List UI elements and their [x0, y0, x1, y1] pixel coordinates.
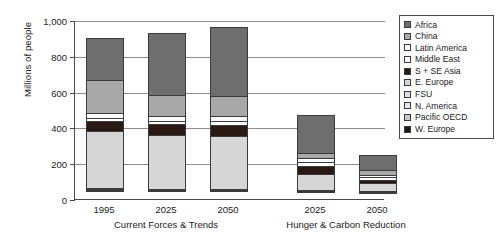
- legend-swatch-icon: [404, 114, 411, 121]
- legend-swatch-icon: [404, 44, 411, 51]
- bar-segment: [86, 131, 124, 189]
- bar-segment: [148, 135, 186, 190]
- bar-segment: [86, 190, 124, 192]
- x-axis-tick-label: 2025: [155, 204, 176, 215]
- legend-swatch-icon: [404, 21, 411, 28]
- x-axis-group-label: Hunger & Carbon Reduction: [286, 219, 405, 230]
- chart-root: Millions of people 02004006008001,000 19…: [0, 0, 498, 245]
- legend-item-label: FSU: [415, 90, 432, 99]
- x-axis-tick-label: 2050: [217, 204, 238, 215]
- bar-segment: [210, 96, 248, 117]
- legend-swatch-icon: [404, 126, 411, 133]
- bar-segment: [86, 80, 124, 114]
- x-axis-tick-label: 2025: [304, 204, 325, 215]
- y-axis-tick-label: 0: [62, 195, 67, 206]
- legend-item-label: Middle East: [415, 55, 460, 64]
- bar-stack: [148, 33, 186, 199]
- legend-swatch-icon: [404, 68, 411, 75]
- plot-area: 02004006008001,000: [74, 21, 384, 200]
- legend-item-label: W. Europe: [415, 125, 455, 134]
- legend-item[interactable]: E. Europe: [404, 77, 490, 89]
- x-axis-tick-label: 1995: [93, 204, 114, 215]
- legend-item-label: Latin America: [415, 44, 467, 53]
- bar-segment: [86, 38, 124, 81]
- legend-item-label: S + SE Asia: [415, 67, 461, 76]
- y-axis-tick: [70, 128, 75, 129]
- legend-item[interactable]: S + SE Asia: [404, 65, 490, 77]
- y-axis-tick-label: 600: [51, 87, 67, 98]
- bar-segment: [148, 95, 186, 117]
- legend-swatch-icon: [404, 56, 411, 63]
- y-axis-tick-label: 200: [51, 159, 67, 170]
- bar-segment: [297, 115, 335, 153]
- bar-segment: [148, 190, 186, 192]
- legend-item[interactable]: Pacific OECD: [404, 112, 490, 124]
- legend-item-label: Pacific OECD: [415, 113, 468, 122]
- y-axis-tick-label: 800: [51, 51, 67, 62]
- x-axis-tick-label: 2050: [366, 204, 387, 215]
- bar-stack: [359, 155, 397, 199]
- legend-item[interactable]: China: [404, 31, 490, 43]
- bar-segment: [297, 174, 335, 191]
- x-axis-group-label: Current Forces & Trends: [114, 219, 218, 230]
- y-axis-tick-label: 1,000: [43, 16, 67, 27]
- bar-stack: [297, 115, 335, 199]
- legend-item-label: E. Europe: [415, 78, 453, 87]
- legend-swatch-icon: [404, 79, 411, 86]
- y-axis-title: Millions of people: [22, 0, 33, 125]
- legend-item-label: N. America: [415, 102, 457, 111]
- y-axis-tick: [70, 21, 75, 22]
- y-axis-tick: [70, 164, 75, 165]
- legend-item[interactable]: FSU: [404, 89, 490, 101]
- bar-stack: [210, 27, 248, 199]
- y-axis-tick: [70, 200, 75, 201]
- legend-swatch-icon: [404, 33, 411, 40]
- bar-segment: [210, 27, 248, 97]
- legend-item[interactable]: Africa: [404, 19, 490, 31]
- legend-item[interactable]: W. Europe: [404, 123, 490, 135]
- chart-legend: AfricaChinaLatin AmericaMiddle EastS + S…: [399, 15, 494, 139]
- legend-item[interactable]: N. America: [404, 100, 490, 112]
- legend-item[interactable]: Middle East: [404, 54, 490, 66]
- y-axis-tick: [70, 57, 75, 58]
- legend-item-label: China: [415, 32, 437, 41]
- y-axis-tick-label: 400: [51, 123, 67, 134]
- bar-segment: [359, 192, 397, 194]
- legend-swatch-icon: [404, 91, 411, 98]
- bar-segment: [148, 33, 186, 96]
- bar-segment: [210, 190, 248, 192]
- bar-segment: [359, 155, 397, 170]
- legend-item-label: Africa: [415, 21, 437, 30]
- gridline: [75, 21, 385, 22]
- legend-item[interactable]: Latin America: [404, 42, 490, 54]
- bar-segment: [210, 136, 248, 191]
- bar-stack: [86, 38, 124, 199]
- y-axis-tick: [70, 93, 75, 94]
- bar-segment: [297, 191, 335, 193]
- legend-swatch-icon: [404, 102, 411, 109]
